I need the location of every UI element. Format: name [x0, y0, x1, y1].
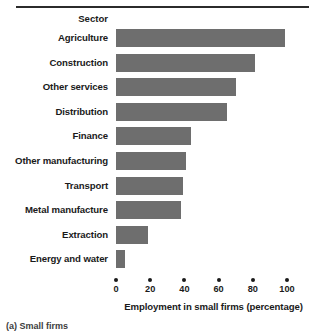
bar [116, 103, 227, 121]
bar-category-label: Agriculture [0, 29, 108, 47]
tick-dot-icon [148, 278, 152, 282]
x-axis-tick: 40 [172, 278, 196, 295]
category-axis-header: Sector [0, 12, 311, 26]
x-axis-tick: 0 [104, 278, 128, 295]
bar [116, 54, 255, 72]
x-axis-tick-label: 20 [138, 284, 162, 295]
bar-row: Other services [0, 78, 311, 96]
bar-category-label: Other services [0, 78, 108, 96]
tick-dot-icon [182, 278, 186, 282]
x-axis-title: Employment in small firms (percentage) [116, 301, 311, 312]
bar [116, 78, 236, 96]
bar-chart-figure: Sector AgricultureConstructionOther serv… [0, 0, 311, 332]
bar [116, 29, 285, 47]
figure-caption: (a) Small firms [6, 321, 68, 332]
tick-dot-icon [217, 278, 221, 282]
x-axis-tick-label: 60 [207, 284, 231, 295]
bar [116, 226, 148, 244]
bar-category-label: Transport [0, 177, 108, 195]
bar-row: Agriculture [0, 29, 311, 47]
x-axis-tick: 20 [138, 278, 162, 295]
bar-row: Extraction [0, 226, 311, 244]
bar-category-label: Construction [0, 54, 108, 72]
bar [116, 127, 191, 145]
bar-category-label: Extraction [0, 226, 108, 244]
x-axis-tick-label: 0 [104, 284, 128, 295]
bar-row: Other manufacturing [0, 152, 311, 170]
x-axis-tick: 100 [275, 278, 299, 295]
bar-row: Energy and water [0, 250, 311, 268]
top-divider-rule [16, 6, 309, 8]
bar-row: Finance [0, 127, 311, 145]
x-axis-tick: 60 [207, 278, 231, 295]
bar [116, 177, 183, 195]
bar-row: Construction [0, 54, 311, 72]
bar-category-label: Other manufacturing [0, 152, 108, 170]
bar-row: Distribution [0, 103, 311, 121]
bar-category-label: Metal manufacture [0, 201, 108, 219]
bar-category-label: Finance [0, 127, 108, 145]
bar-category-label: Energy and water [0, 250, 108, 268]
tick-dot-icon [114, 278, 118, 282]
bar [116, 250, 125, 268]
bar [116, 201, 181, 219]
bar-row: Metal manufacture [0, 201, 311, 219]
x-axis: 020406080100 [0, 278, 311, 300]
x-axis-tick-label: 40 [172, 284, 196, 295]
x-axis-tick: 80 [241, 278, 265, 295]
bar-category-label: Distribution [0, 103, 108, 121]
tick-dot-icon [251, 278, 255, 282]
bar [116, 152, 186, 170]
category-axis-title: Sector [0, 12, 108, 26]
x-axis-tick-label: 80 [241, 284, 265, 295]
bar-row: Transport [0, 177, 311, 195]
tick-dot-icon [285, 278, 289, 282]
x-axis-tick-label: 100 [275, 284, 299, 295]
